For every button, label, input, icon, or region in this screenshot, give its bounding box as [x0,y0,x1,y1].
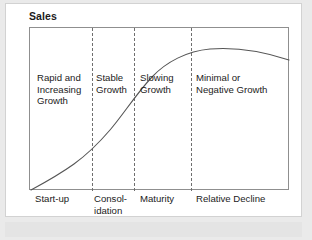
sales-curve [30,28,290,191]
figure-sheet: Sales Rapid and Increasing Growth Stable… [5,3,302,217]
phase-label-stable-growth: Stable Growth [96,72,127,95]
stage-label-maturity: Maturity [140,193,174,205]
y-axis-title: Sales [29,10,57,22]
phase-label-slowing-growth: Slowing Growth [140,72,174,95]
caption-band [5,222,302,237]
stage-label-relative-decline: Relative Decline [196,193,265,205]
stage-label-consolidation: Consol- idation [94,193,127,216]
phase-label-minimal-negative-growth: Minimal or Negative Growth [196,72,267,95]
stage-label-start-up: Start-up [35,193,69,205]
phase-label-rapid-increasing-growth: Rapid and Increasing Growth [37,72,81,107]
product-life-cycle-figure: Sales Rapid and Increasing Growth Stable… [0,0,312,240]
plot-frame: Rapid and Increasing Growth Stable Growt… [29,27,289,190]
